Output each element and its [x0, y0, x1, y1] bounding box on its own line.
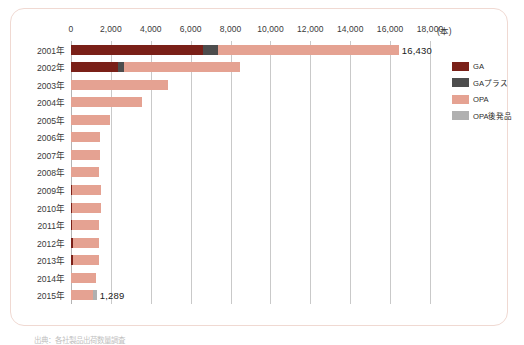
- x-tick-label-8000: 8,000: [220, 24, 242, 34]
- stacked-bar[interactable]: [71, 255, 99, 265]
- y-axis-label-5: 2005年: [37, 114, 65, 126]
- stacked-bar[interactable]: [71, 220, 99, 230]
- stacked-bar[interactable]: [71, 167, 99, 177]
- stacked-bar[interactable]: [71, 185, 101, 195]
- bar-row: 2004年: [0, 94, 524, 112]
- x-tick-label-2000: 2,000: [100, 24, 122, 34]
- legend-label: GAプラス: [473, 77, 508, 88]
- x-tick-label-6000: 6,000: [180, 24, 202, 34]
- bar-segment-opa: [218, 45, 399, 55]
- legend-swatch-ga: [452, 62, 469, 71]
- legend-label: GA: [473, 62, 484, 71]
- y-axis-label-9: 2009年: [37, 184, 65, 196]
- bar-row: 2002年: [0, 59, 524, 77]
- bar-segment-opa: [71, 150, 100, 160]
- x-axis-unit-label: (本): [437, 24, 452, 36]
- bar-segment-opa: [72, 203, 101, 213]
- x-tick-label-10000: 10,000: [257, 24, 284, 34]
- stacked-bar[interactable]: [71, 115, 110, 125]
- legend-swatch-opag: [452, 111, 469, 120]
- y-axis-label-14: 2014年: [37, 272, 65, 284]
- y-axis-label-2: 2002年: [37, 61, 65, 73]
- stacked-bar[interactable]: [71, 80, 168, 90]
- stacked-bar[interactable]: [71, 273, 96, 283]
- y-axis-label-12: 2012年: [37, 237, 65, 249]
- bar-row: 2006年: [0, 129, 524, 147]
- stacked-bar[interactable]: [71, 203, 101, 213]
- bar-segment-ga: [71, 62, 118, 72]
- bar-row: 2010年: [0, 199, 524, 217]
- bar-row: 2014年: [0, 269, 524, 287]
- bar-row: 2012年: [0, 234, 524, 252]
- stacked-bar[interactable]: [71, 150, 100, 160]
- legend-label: OPA後発品: [473, 110, 512, 121]
- stacked-bar[interactable]: [71, 238, 99, 248]
- bar-segment-opa: [71, 97, 142, 107]
- bar-segment-opag: [93, 290, 96, 300]
- legend-item-opa[interactable]: OPA: [452, 91, 516, 108]
- bar-segment-opa: [71, 290, 93, 300]
- y-axis-label-15: 2015年: [37, 289, 65, 301]
- bar-row: 2015年1,289: [0, 286, 524, 304]
- bar-row: 2013年: [0, 251, 524, 269]
- bar-segment-opa: [73, 238, 99, 248]
- bar-value-label: 16,430: [402, 44, 432, 55]
- stacked-bar[interactable]: [71, 97, 142, 107]
- y-axis-label-8: 2008年: [37, 166, 65, 178]
- bar-segment-opa: [71, 132, 100, 142]
- bar-segment-opa: [71, 167, 99, 177]
- bar-rows: 2001年16,4302002年2003年2004年2005年2006年2007…: [0, 41, 524, 304]
- y-axis-label-7: 2007年: [37, 149, 65, 161]
- y-axis-label-4: 2004年: [37, 96, 65, 108]
- bar-segment-opa: [73, 255, 100, 265]
- bar-segment-gap: [203, 45, 218, 55]
- chart-legend: GAGAプラスOPAOPA後発品: [452, 58, 516, 124]
- bar-segment-ga: [71, 45, 203, 55]
- legend-item-gap[interactable]: GAプラス: [452, 75, 516, 92]
- bar-value-label: 1,289: [100, 290, 125, 301]
- stacked-bar[interactable]: [71, 132, 100, 142]
- bar-row: 2011年: [0, 216, 524, 234]
- x-tick-label-4000: 4,000: [140, 24, 162, 34]
- bar-segment-opa: [71, 115, 110, 125]
- legend-item-ga[interactable]: GA: [452, 58, 516, 75]
- y-axis-label-10: 2010年: [37, 202, 65, 214]
- y-axis-label-1: 2001年: [37, 44, 65, 56]
- bar-row: 2001年16,430: [0, 41, 524, 59]
- bar-row: 2008年: [0, 164, 524, 182]
- x-tick-label-16000: 16,000: [377, 24, 404, 34]
- stacked-bar[interactable]: [71, 62, 240, 72]
- legend-item-opag[interactable]: OPA後発品: [452, 108, 516, 125]
- bar-segment-opa: [72, 220, 99, 230]
- chart-footnote: 出典：各社製品出荷数量調査: [34, 334, 125, 345]
- y-axis-label-6: 2006年: [37, 131, 65, 143]
- stacked-bar[interactable]: [71, 290, 97, 300]
- bar-segment-opa: [71, 273, 96, 283]
- x-tick-label-12000: 12,000: [297, 24, 324, 34]
- x-tick-label-0: 0: [69, 24, 74, 34]
- legend-swatch-gap: [452, 78, 469, 87]
- y-axis-label-3: 2003年: [37, 79, 65, 91]
- bar-segment-opa: [72, 185, 101, 195]
- bar-segment-opa: [71, 80, 168, 90]
- y-axis-label-11: 2011年: [38, 219, 65, 231]
- legend-swatch-opa: [452, 95, 469, 104]
- bar-row: 2005年: [0, 111, 524, 129]
- bar-row: 2009年: [0, 181, 524, 199]
- bar-row: 2003年: [0, 76, 524, 94]
- x-tick-label-14000: 14,000: [337, 24, 364, 34]
- legend-label: OPA: [473, 95, 488, 104]
- stacked-bar[interactable]: [71, 45, 399, 55]
- y-axis-label-13: 2013年: [37, 254, 65, 266]
- bar-segment-opa: [124, 62, 240, 72]
- bar-row: 2007年: [0, 146, 524, 164]
